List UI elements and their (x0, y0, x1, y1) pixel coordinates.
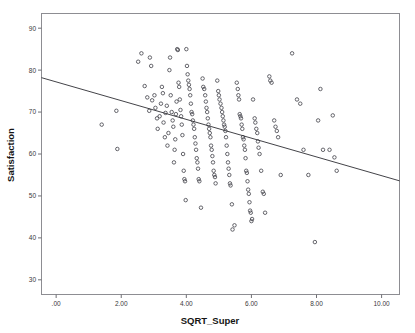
x-tick-label: 6.00 (245, 300, 258, 307)
plot-frame (42, 14, 400, 295)
y-tick-label: 90 (29, 25, 37, 32)
y-tick-label: 40 (29, 234, 37, 241)
x-tick-label: 10.00 (373, 300, 390, 307)
x-axis-title: SQRT_Super (181, 315, 240, 326)
y-tick-label: 30 (29, 276, 37, 283)
x-tick-label: 4.00 (180, 300, 193, 307)
y-axis-title: Satisfaction (5, 128, 16, 182)
x-tick-label: 2.00 (115, 300, 128, 307)
x-tick-label: 8.00 (310, 300, 323, 307)
y-tick-label: 50 (29, 192, 37, 199)
chart-canvas: .002.004.006.008.0010.00 30405060708090 … (0, 0, 415, 333)
y-tick-label: 60 (29, 150, 37, 157)
scatter-plot-figure: .002.004.006.008.0010.00 30405060708090 … (0, 0, 415, 333)
y-tick-label: 80 (29, 67, 37, 74)
y-tick-label: 70 (29, 108, 37, 115)
x-tick-label: .00 (52, 300, 61, 307)
